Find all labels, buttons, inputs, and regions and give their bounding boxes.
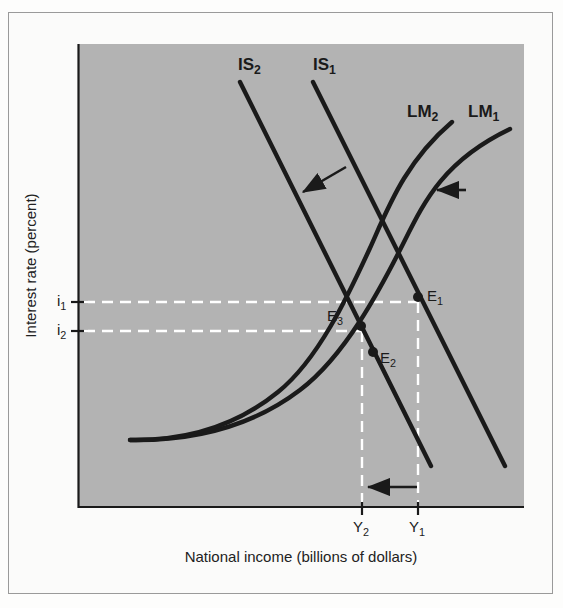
point-label-e3-base: E bbox=[327, 307, 337, 324]
x-tick-label-y1: Y1 bbox=[409, 519, 425, 538]
x-axis-title: National income (billions of dollars) bbox=[78, 549, 524, 564]
point-label-e1-base: E bbox=[427, 287, 437, 304]
x-tick-label-y2-sub: 2 bbox=[363, 526, 369, 538]
y-axis-title: Interest rate (percent) bbox=[23, 176, 38, 356]
curve-label-lm1-base: LM bbox=[468, 102, 493, 121]
curve-label-is2-base: IS bbox=[238, 55, 254, 74]
y-tick-label-i2-sub: 2 bbox=[60, 329, 66, 341]
point-label-e2: E2 bbox=[380, 350, 396, 369]
is-lm-chart-canvas bbox=[0, 0, 563, 608]
curve-label-lm1-sub: 1 bbox=[493, 110, 500, 124]
point-label-e1: E1 bbox=[427, 288, 443, 307]
x-tick-label-y2-base: Y bbox=[353, 518, 363, 535]
equilibrium-dot-e2 bbox=[368, 347, 378, 357]
point-label-e3: E3 bbox=[327, 308, 343, 327]
point-label-e2-sub: 2 bbox=[390, 357, 396, 369]
curve-label-lm2-base: LM bbox=[407, 102, 432, 121]
x-tick-label-y1-sub: 1 bbox=[419, 526, 425, 538]
curve-label-lm1: LM1 bbox=[468, 103, 499, 124]
x-tick-label-y1-base: Y bbox=[409, 518, 419, 535]
equilibrium-dot-e3 bbox=[356, 321, 366, 331]
point-label-e3-sub: 3 bbox=[337, 315, 343, 327]
curve-label-is2-sub: 2 bbox=[254, 63, 261, 77]
y-tick-label-i2: i2 bbox=[57, 322, 66, 341]
curve-label-is1-base: IS bbox=[313, 55, 329, 74]
y-tick-label-i1: i1 bbox=[57, 293, 66, 312]
curve-label-is1-sub: 1 bbox=[329, 63, 336, 77]
equilibrium-dot-e1 bbox=[413, 292, 423, 302]
y-tick-label-i1-sub: 1 bbox=[60, 300, 66, 312]
curve-label-is2: IS2 bbox=[238, 56, 261, 77]
figure-root: IS2 IS1 LM2 LM1 E1 E2 E3 i1 i2 Y2 Y1 Int… bbox=[0, 0, 563, 608]
point-label-e2-base: E bbox=[380, 349, 390, 366]
x-tick-label-y2: Y2 bbox=[353, 519, 369, 538]
curve-label-lm2-sub: 2 bbox=[432, 110, 439, 124]
curve-label-is1: IS1 bbox=[313, 56, 336, 77]
point-label-e1-sub: 1 bbox=[437, 295, 443, 307]
curve-label-lm2: LM2 bbox=[407, 103, 438, 124]
